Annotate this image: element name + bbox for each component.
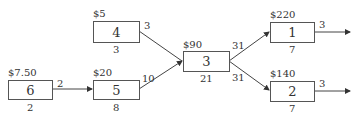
node-2-right-value: 3 <box>319 79 325 89</box>
node-4-cost: $5 <box>93 9 106 19</box>
node-5-label: 5 <box>112 83 120 98</box>
node-2-cost: $140 <box>270 69 295 79</box>
node-5-cost: $20 <box>93 68 112 78</box>
node-1: 1 <box>270 22 315 43</box>
node-6-bottom-value: 2 <box>27 103 33 113</box>
node-1-right-value: 3 <box>319 20 325 30</box>
node-2-bottom-value: 7 <box>289 104 295 114</box>
node-6-right-value: 2 <box>57 79 63 89</box>
node-6-cost: $7.50 <box>8 68 37 78</box>
node-5-right-value: 10 <box>142 74 155 84</box>
node-1-cost: $220 <box>270 10 295 20</box>
node-2: 2 <box>270 81 315 102</box>
edge-4-to-3 <box>139 31 182 61</box>
node-4-label: 4 <box>112 25 120 40</box>
node-3: 3 <box>183 51 230 72</box>
node-5-bottom-value: 8 <box>113 103 119 113</box>
node-3-bottom-value: 21 <box>200 74 213 84</box>
node-1-bottom-value: 7 <box>289 45 295 55</box>
node-2-label: 2 <box>288 84 296 99</box>
node-3-right-value-bottom: 31 <box>232 73 245 83</box>
node-6-label: 6 <box>26 83 34 98</box>
node-5: 5 <box>93 80 140 100</box>
node-3-right-value-top: 31 <box>232 41 245 51</box>
node-3-label: 3 <box>202 54 210 69</box>
node-4: 4 <box>93 21 140 43</box>
node-1-label: 1 <box>288 25 296 40</box>
node-6: 6 <box>8 80 53 100</box>
node-4-right-value: 3 <box>144 21 150 31</box>
node-4-bottom-value: 3 <box>113 45 119 55</box>
node-3-cost: $90 <box>183 40 202 50</box>
